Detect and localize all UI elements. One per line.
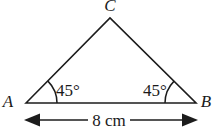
triangle-diagram-canvas: A B C 45° 45° 8 cm [0, 0, 216, 131]
vertex-label-c: C [104, 0, 116, 15]
geometry-figure: A B C 45° 45° 8 cm [0, 0, 216, 131]
dimension-arrowhead-left [24, 114, 40, 127]
angle-label-b: 45° [143, 81, 167, 100]
vertex-label-b: B [201, 92, 212, 111]
triangle-outline [26, 18, 196, 103]
dimension-arrowhead-right [182, 114, 198, 127]
vertex-label-a: A [2, 92, 14, 111]
dimension-label: 8 cm [92, 111, 126, 130]
angle-label-a: 45° [56, 81, 80, 100]
